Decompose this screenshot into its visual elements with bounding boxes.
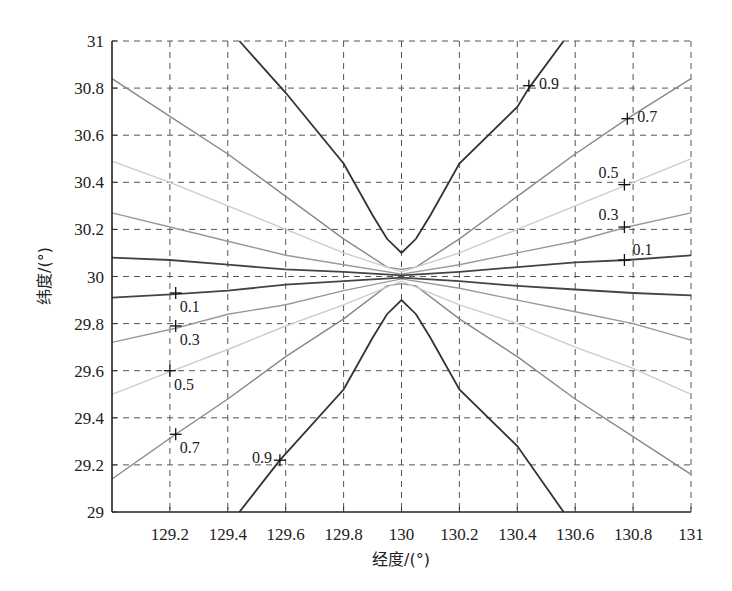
x-tick-label: 130 [389,525,415,544]
contour-level-label: 0.9 [252,449,272,466]
contour-level-label: 0.3 [180,331,200,348]
x-axis-label: 经度/(°) [372,550,430,569]
x-tick-label: 129.6 [267,525,305,544]
contour-level-label: 0.7 [180,439,200,456]
contour-markers: 0.90.70.50.30.10.10.30.50.70.9 [164,75,657,466]
contour-level-label: 0.5 [174,376,194,393]
y-tick-label: 30.6 [74,126,104,145]
y-tick-label: 29.4 [74,409,104,428]
contour-level-label: 0.9 [539,75,559,92]
contour-chart: 129.2129.4129.6129.8130130.2130.4130.613… [0,0,732,591]
y-tick-label: 29.8 [74,315,104,334]
x-tick-label: 130.4 [498,525,537,544]
contour-level-label: 0.7 [637,108,657,125]
x-tick-label: 129.4 [209,525,248,544]
x-tick-label: 130.8 [614,525,652,544]
x-tick-label: 129.8 [324,525,362,544]
x-tick-label: 129.2 [151,525,189,544]
contour-level-label: 0.5 [598,164,618,181]
contour-level-label: 0.3 [598,206,618,223]
x-tick-label: 130.2 [440,525,478,544]
y-tick-label: 31 [87,32,104,51]
y-tick-label: 29.6 [74,362,104,381]
y-axis-label: 纬度/(°) [35,247,54,305]
y-tick-label: 29.2 [74,456,104,475]
x-tick-label: 131 [678,525,704,544]
x-tick-label: 130.6 [556,525,594,544]
y-tick-label: 29 [87,503,104,522]
y-tick-label: 30.2 [74,220,104,239]
contour-level-label: 0.1 [180,298,200,315]
y-axis-ticks: 2929.229.429.629.83030.230.430.630.831 [74,32,117,522]
y-tick-label: 30.4 [74,173,104,192]
contour-level-label: 0.1 [632,241,652,258]
y-tick-label: 30 [87,268,104,287]
y-tick-label: 30.8 [74,79,104,98]
